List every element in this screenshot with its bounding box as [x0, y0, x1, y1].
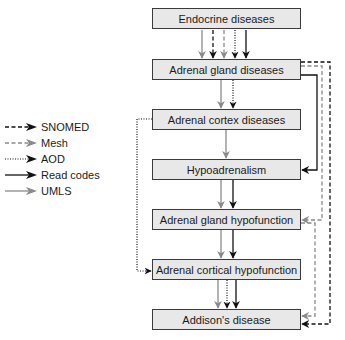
edge-hypoadrenalism-to-adrenal-gland-hypofunction — [221, 180, 233, 208]
legend-item-read-codes: Read codes — [4, 168, 100, 182]
legend-label: SNOMED — [41, 121, 89, 133]
dashed-grey-arrow-icon — [4, 138, 38, 148]
node-endocrine-diseases: Endocrine diseases — [152, 8, 301, 29]
legend-item-mesh: Mesh — [4, 136, 68, 150]
edge-snomed-adrenal-gland-to-addisons — [301, 62, 330, 324]
legend-label: Mesh — [41, 137, 68, 149]
legend-item-aod: AOD — [4, 152, 65, 166]
node-adrenal-gland-diseases: Adrenal gland diseases — [152, 59, 301, 80]
edge-read-codes-adrenal-gland-to-hypoadrenalism — [301, 75, 317, 170]
dashed-black-arrow-icon — [4, 122, 38, 132]
solid-black-arrow-icon — [4, 170, 38, 180]
node-addisons-disease: Addison's disease — [152, 309, 301, 330]
legend-item-umls: UMLS — [4, 184, 72, 198]
legend-label: Read codes — [41, 169, 100, 181]
legend-item-snomed: SNOMED — [4, 120, 89, 134]
legend-label: AOD — [41, 153, 65, 165]
edge-adrenal-gland-to-adrenal-cortex — [221, 80, 233, 108]
edge-mesh-adrenal-gland-hypofunction-to-addisons — [301, 223, 315, 316]
edge-aod-adrenal-cortex-to-adrenal-cortical-hypofunction — [137, 119, 152, 271]
edge-mesh-adrenal-gland-to-adrenal-gland-hypofunction — [301, 66, 322, 220]
node-hypoadrenalism: Hypoadrenalism — [152, 159, 301, 180]
edge-endocrine-to-adrenal-gland — [202, 30, 246, 58]
node-adrenal-cortex-diseases: Adrenal cortex diseases — [152, 109, 301, 130]
legend-label: UMLS — [41, 185, 72, 197]
edge-adrenal-gland-hypofunction-to-adrenal-cortical-hypofunction — [221, 230, 233, 258]
edge-adrenal-cortical-hypofunction-to-addisons — [218, 280, 236, 308]
dotted-black-arrow-icon — [4, 154, 38, 164]
solid-grey-arrow-icon — [4, 186, 38, 196]
node-adrenal-cortical-hypofunction: Adrenal cortical hypofunction — [152, 259, 301, 280]
node-adrenal-gland-hypofunction: Adrenal gland hypofunction — [152, 209, 301, 230]
